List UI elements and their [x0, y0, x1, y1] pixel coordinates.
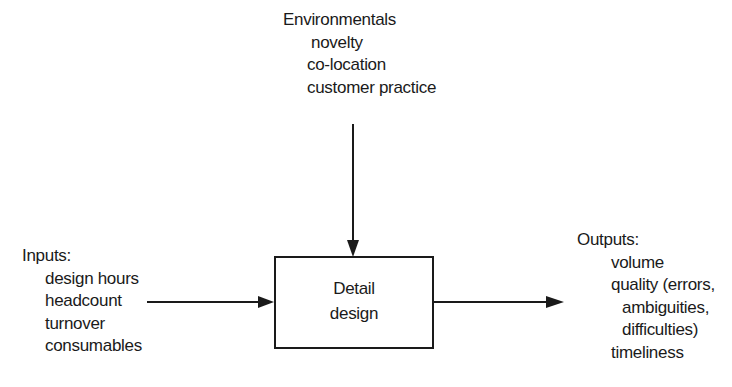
outputs-arrow: [434, 296, 564, 308]
inputs-arrow: [147, 296, 274, 308]
environmentals-arrow: [347, 124, 359, 257]
arrows-layer: [0, 0, 732, 387]
